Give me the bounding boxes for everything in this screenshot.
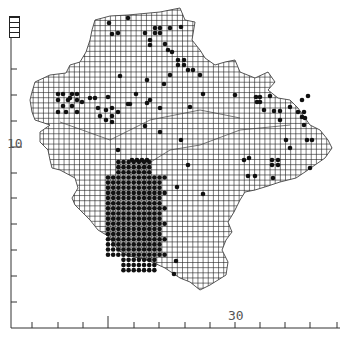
map-canvas xyxy=(0,0,342,339)
legend-key-box xyxy=(9,16,20,38)
axis-label-bottom: 30 xyxy=(228,308,244,323)
distribution-map: 10 30 xyxy=(0,0,342,339)
axis-label-left: 10 xyxy=(7,136,23,151)
